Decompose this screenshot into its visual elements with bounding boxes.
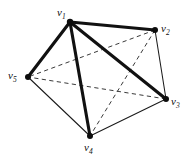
graph-vertex-v1 [67, 19, 73, 25]
vertex-label-v4: v4 [84, 142, 93, 156]
graph-canvas [0, 0, 188, 159]
vertex-label-subscript-v5: 5 [13, 75, 17, 84]
vertex-label-v2: v2 [161, 23, 170, 37]
graph-vertex-v4 [87, 133, 93, 139]
graph-edge-v1-v2 [70, 22, 155, 30]
edge-layer [28, 22, 166, 136]
graph-edge-v1-v3 [70, 22, 166, 99]
vertex-label-subscript-v3: 3 [176, 101, 180, 110]
vertex-label-subscript-v1: 1 [62, 12, 66, 21]
graph-edge-v3-v5 [28, 77, 166, 99]
graph-vertex-v2 [152, 27, 158, 33]
vertex-label-subscript-v4: 4 [89, 147, 93, 156]
graph-edge-v2-v3 [155, 30, 166, 99]
graph-edge-v1-v4 [70, 22, 90, 136]
graph-edge-v1-v5 [28, 22, 70, 77]
vertex-label-v1: v1 [57, 7, 66, 21]
graph-vertex-v3 [163, 96, 169, 102]
graph-figure: v1v2v3v4v5 [0, 0, 188, 159]
graph-vertex-v5 [25, 74, 31, 80]
vertex-label-v5: v5 [8, 70, 17, 84]
vertex-label-subscript-v2: 2 [166, 28, 170, 37]
vertex-label-v3: v3 [171, 96, 180, 110]
vertex-layer [25, 19, 169, 139]
